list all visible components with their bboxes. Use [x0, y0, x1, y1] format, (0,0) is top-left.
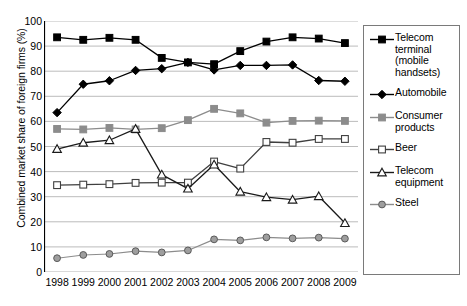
- legend-label: Telecom terminal (mobile handsets): [395, 32, 455, 78]
- data-point: [54, 34, 61, 41]
- data-point: [211, 105, 218, 112]
- chart-legend: Telecom terminal (mobile handsets)Automo…: [363, 25, 460, 275]
- data-point: [379, 36, 386, 43]
- x-axis-tick-label: 2002: [150, 276, 173, 288]
- x-axis-tick-label: 2004: [202, 276, 225, 288]
- data-point: [106, 125, 113, 132]
- legend-label: Consumer products: [395, 110, 455, 133]
- legend-item[interactable]: Beer: [369, 142, 455, 156]
- data-point: [106, 34, 113, 41]
- data-point: [289, 139, 296, 146]
- y-axis-tick-label: 100: [16, 16, 42, 26]
- data-point: [185, 247, 192, 254]
- data-point: [158, 179, 165, 186]
- legend-item[interactable]: Automobile: [369, 87, 455, 101]
- data-point: [342, 235, 349, 242]
- legend-marker-open-square-icon: [369, 143, 395, 156]
- data-point: [132, 248, 139, 255]
- x-axis-tick-label: 2003: [176, 276, 199, 288]
- data-point: [54, 182, 61, 189]
- legend-item[interactable]: Consumer products: [369, 110, 455, 133]
- legend-label: Telecom equipment: [395, 165, 455, 188]
- data-point: [342, 40, 349, 47]
- data-point: [132, 36, 139, 43]
- legend-label: Automobile: [395, 87, 447, 99]
- y-axis-tick-label: 60: [16, 116, 42, 126]
- series-3: [54, 136, 349, 189]
- data-point: [158, 249, 165, 256]
- data-point: [342, 136, 349, 143]
- data-point: [379, 146, 386, 153]
- legend-item[interactable]: Steel: [369, 197, 455, 211]
- data-point: [263, 234, 270, 241]
- data-point: [237, 48, 244, 55]
- x-axis-tick-label: 1999: [72, 276, 95, 288]
- data-point: [106, 181, 113, 188]
- legend-item[interactable]: Telecom equipment: [369, 165, 455, 188]
- legend-marker-filled-square-icon: [369, 111, 395, 124]
- data-point: [132, 179, 139, 186]
- data-point: [315, 234, 322, 241]
- data-point: [158, 125, 165, 132]
- data-point: [314, 192, 323, 200]
- legend-marker-filled-square-icon: [369, 33, 395, 46]
- series-line: [57, 37, 345, 64]
- data-point: [315, 117, 322, 124]
- series-line: [57, 139, 345, 185]
- data-point: [80, 36, 87, 43]
- series-1: [53, 58, 349, 117]
- x-axis-tick-label: 2007: [281, 276, 304, 288]
- data-point: [379, 114, 386, 121]
- y-axis-tick-label: 30: [16, 192, 42, 202]
- series-5: [54, 234, 349, 262]
- y-axis-tick-label: 0: [16, 267, 42, 277]
- x-axis-tick-label: 2001: [124, 276, 147, 288]
- data-point: [262, 61, 270, 69]
- data-point: [106, 251, 113, 258]
- y-axis-tick-label: 40: [16, 167, 42, 177]
- y-axis-tick-label: 70: [16, 91, 42, 101]
- data-point: [263, 119, 270, 126]
- x-axis-tick-labels: 1998199920002001200220032004200520062007…: [44, 276, 358, 300]
- series-line: [57, 237, 345, 258]
- y-axis-tick-label: 10: [16, 242, 42, 252]
- data-point: [236, 61, 244, 69]
- data-point: [80, 181, 87, 188]
- x-axis-tick-label: 2008: [307, 276, 330, 288]
- data-point: [237, 237, 244, 244]
- series-line: [57, 109, 345, 130]
- plot-area: [44, 21, 358, 272]
- data-point: [289, 117, 296, 124]
- legend-marker-filled-circle-icon: [369, 198, 395, 211]
- data-point: [289, 235, 296, 242]
- y-axis-tick-label: 50: [16, 142, 42, 152]
- data-point: [158, 54, 165, 61]
- data-point: [315, 76, 323, 84]
- data-point: [315, 35, 322, 42]
- data-point: [80, 252, 87, 259]
- x-axis-tick-label: 2000: [98, 276, 121, 288]
- series-line: [57, 129, 345, 223]
- data-point: [80, 126, 87, 133]
- data-point: [288, 61, 296, 69]
- data-point: [54, 126, 61, 133]
- series-0: [54, 34, 349, 68]
- data-point: [263, 139, 270, 146]
- data-point: [185, 117, 192, 124]
- data-point: [54, 255, 61, 262]
- data-point: [342, 117, 349, 124]
- series-4: [53, 125, 349, 227]
- legend-label: Beer: [395, 142, 417, 154]
- data-point: [237, 165, 244, 172]
- x-axis-tick-label: 2005: [229, 276, 252, 288]
- data-point: [211, 236, 218, 243]
- data-point: [237, 110, 244, 117]
- y-axis-tick-label: 20: [16, 217, 42, 227]
- legend-item[interactable]: Telecom terminal (mobile handsets): [369, 32, 455, 78]
- x-axis-tick-label: 2006: [255, 276, 278, 288]
- series-2: [54, 105, 349, 132]
- data-point: [105, 136, 114, 144]
- y-axis-tick-label: 90: [16, 41, 42, 51]
- data-point: [131, 66, 139, 74]
- y-axis-tick-labels: 1009080706050403020100: [10, 0, 42, 306]
